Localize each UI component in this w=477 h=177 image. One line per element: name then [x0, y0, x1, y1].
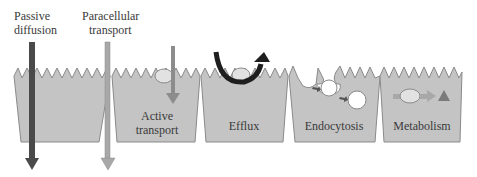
- cell-passive: [14, 68, 110, 142]
- carrier-icon: [155, 69, 173, 83]
- efflux-arrowhead-icon: [254, 52, 270, 62]
- efflux-label: Efflux: [206, 119, 282, 133]
- vesicle-icon: [321, 80, 337, 96]
- paracellular-label: Paracellular transport: [82, 9, 139, 37]
- active-transport-label: Active transport: [120, 109, 194, 137]
- passive-diffusion-line2: diffusion: [14, 23, 57, 37]
- paracellular-line2: transport: [82, 23, 139, 37]
- active-transport-line1: Active: [120, 109, 194, 123]
- active-transport-line2: transport: [120, 123, 194, 137]
- paracellular-line1: Paracellular: [82, 9, 139, 23]
- epithelium-diagram: [0, 0, 477, 177]
- metabolism-label: Metabolism: [384, 119, 460, 133]
- endocytosis-label: Endocytosis: [294, 119, 374, 133]
- passive-diffusion-line1: Passive: [14, 9, 57, 23]
- vesicle-icon: [348, 91, 366, 109]
- passive-diffusion-label: Passive diffusion: [14, 9, 57, 37]
